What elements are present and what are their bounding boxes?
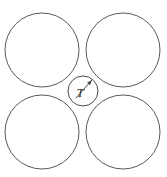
geometry-figure: T — [0, 0, 167, 177]
tangent-circles-diagram: T — [0, 0, 167, 177]
center-circle-radius-label: T — [76, 85, 84, 100]
